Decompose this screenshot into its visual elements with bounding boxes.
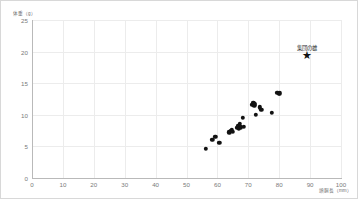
y-axis-tick-label: 10 (21, 111, 28, 118)
data-point (203, 147, 207, 151)
x-axis-tick-label: 10 (59, 181, 66, 188)
data-point (254, 113, 258, 117)
gridline-horizontal (32, 115, 341, 116)
data-point (242, 125, 246, 129)
gridline-vertical (217, 20, 218, 178)
data-point (241, 116, 245, 120)
x-axis-tick-label: 20 (90, 181, 97, 188)
gridline-horizontal (32, 146, 341, 147)
data-point (217, 140, 221, 144)
x-axis-tick-label: 60 (214, 181, 221, 188)
gridline-vertical (63, 20, 64, 178)
gridline-vertical (341, 20, 342, 178)
gridline-vertical (248, 20, 249, 178)
x-axis-tick-label: 70 (245, 181, 252, 188)
gridline-vertical (279, 20, 280, 178)
chart-figure: 体重（g） 0510152025 0102030405060708090100 … (0, 0, 358, 199)
x-axis-tick-label: 50 (183, 181, 190, 188)
gridline-vertical (125, 20, 126, 178)
data-point (259, 108, 263, 112)
x-axis-tick-label: 90 (307, 181, 314, 188)
gridline-vertical (187, 20, 188, 178)
x-axis-tick-label: 40 (152, 181, 159, 188)
x-axis-tick-label: 80 (276, 181, 283, 188)
x-axis-title: 頭胴長（mm） (319, 187, 352, 193)
x-axis-tick-labels: 0102030405060708090100 (1, 181, 358, 193)
gridline-horizontal (32, 52, 341, 53)
y-axis-tick-label: 5 (25, 143, 28, 150)
x-axis-tick-label: 30 (121, 181, 128, 188)
gridline-horizontal (32, 20, 341, 21)
gridline-vertical (156, 20, 157, 178)
x-axis-tick-label: 0 (30, 181, 33, 188)
y-axis-tick-label: 15 (21, 80, 28, 87)
data-point (277, 91, 281, 95)
y-axis-line (32, 20, 33, 179)
data-point (253, 102, 257, 106)
plot-area (32, 20, 341, 178)
y-axis-tick-label: 25 (21, 17, 28, 24)
series-annotation-label: 集団の雄 (297, 44, 317, 52)
y-axis-tick-labels: 0510152025 (1, 1, 28, 199)
y-axis-tick-label: 20 (21, 48, 28, 55)
gridline-horizontal (32, 83, 341, 84)
data-point (231, 130, 235, 134)
x-axis-line (32, 178, 342, 179)
gridline-vertical (94, 20, 95, 178)
